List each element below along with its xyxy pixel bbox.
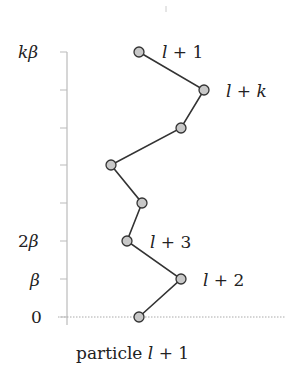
particle-marker xyxy=(137,198,147,208)
particle-marker xyxy=(122,236,132,246)
point-label-l-plus-1: l + 1 xyxy=(162,42,203,62)
y-label-2beta: 2β xyxy=(18,231,39,251)
trajectory-markers xyxy=(106,47,209,322)
point-label-l-plus-2: l + 2 xyxy=(203,270,244,290)
trajectory-line xyxy=(111,52,204,317)
y-label-kbeta: kβ xyxy=(18,42,38,62)
particle-marker xyxy=(106,160,116,170)
particle-trajectory-diagram: kβ 2β β 0 l + 1 l + k l + 3 l + 2 partic… xyxy=(0,0,305,379)
point-label-l-plus-3: l + 3 xyxy=(150,232,191,252)
y-label-zero: 0 xyxy=(31,307,42,327)
y-axis-ticks xyxy=(60,52,67,317)
particle-marker xyxy=(176,123,186,133)
particle-marker xyxy=(176,274,186,284)
particle-marker xyxy=(134,47,144,57)
particle-marker xyxy=(199,85,209,95)
x-caption: particle l + 1 xyxy=(76,343,189,363)
point-label-l-plus-k: l + k xyxy=(226,81,267,101)
y-label-beta: β xyxy=(29,270,40,290)
trajectory-path xyxy=(111,52,204,317)
particle-marker xyxy=(134,312,144,322)
